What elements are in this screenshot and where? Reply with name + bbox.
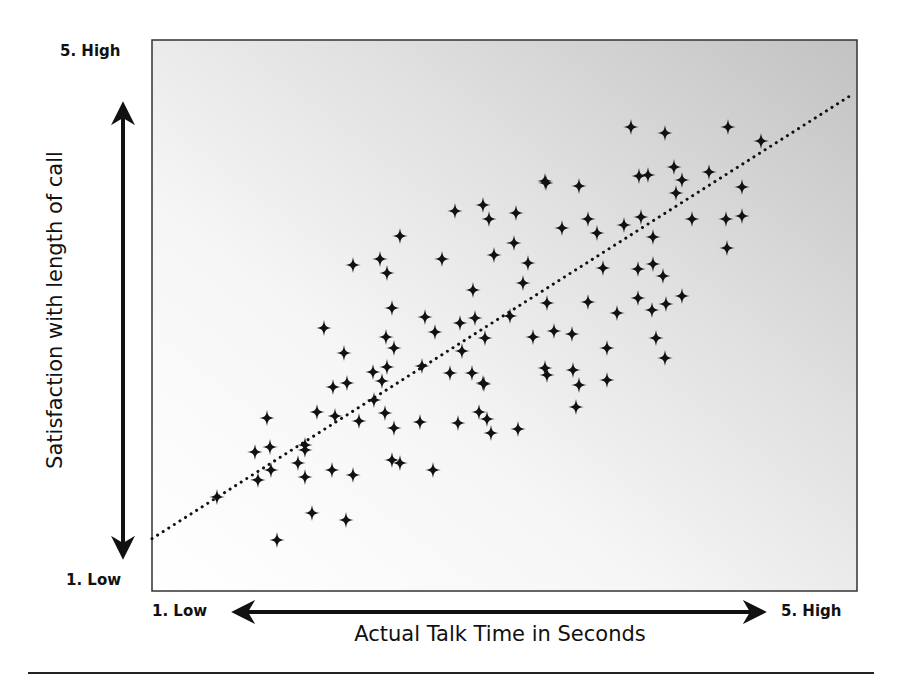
x-low-label: 1. Low	[152, 602, 207, 620]
x-high-label: 5. High	[781, 602, 841, 620]
y-high-label: 5. High	[60, 42, 120, 60]
y-axis-title: Satisfaction with length of call	[43, 151, 67, 469]
y-low-label: 1. Low	[66, 571, 121, 589]
scatter-chart	[0, 0, 899, 682]
bottom-divider	[28, 672, 874, 674]
x-axis-title: Actual Talk Time in Seconds	[350, 622, 650, 646]
